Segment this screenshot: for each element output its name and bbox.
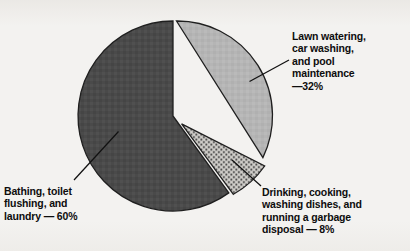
slice-label-lawn-watering: Lawn watering, car washing, and pool mai… [292,30,408,92]
slice-label-drinking-cooking: Drinking, cooking, washing dishes, and r… [262,186,410,236]
pie-chart-figure: Lawn watering, car washing, and pool mai… [0,0,410,251]
slice-label-bathing-toilet-laundry: Bathing, toilet flushing, and laundry — … [4,185,132,222]
